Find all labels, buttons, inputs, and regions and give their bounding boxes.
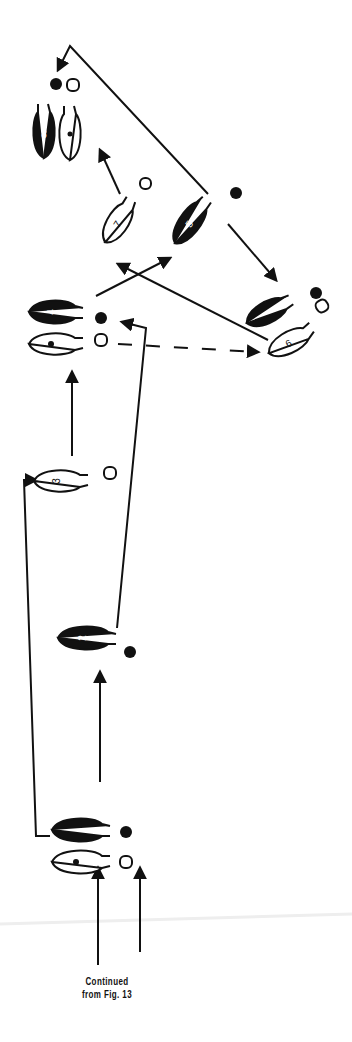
svg-text:8: 8 (41, 129, 47, 140)
svg-text:4: 4 (46, 309, 57, 315)
toe-marker-5 (230, 187, 242, 199)
footprint-step-4: 4 (29, 301, 107, 324)
toe-marker-7 (140, 178, 151, 189)
footprint-step-and-3 (242, 290, 296, 332)
arrow-2-to-4 (117, 322, 146, 628)
footprint-step-3: 3 (34, 467, 116, 492)
arrow-5-to-8 (58, 46, 208, 194)
toe-marker-and-4 (67, 79, 79, 91)
arrow-and-to-3 (24, 480, 50, 836)
svg-text:2: 2 (77, 635, 88, 641)
arrow-4-to-5 (96, 258, 170, 296)
footprint-step-and-4 (59, 106, 80, 160)
footprint-step-5: 5 (166, 193, 214, 249)
caption-line-2: from Fig. 13 (63, 988, 151, 1001)
toe-marker-6 (314, 298, 330, 314)
footprint-step-6: 6 (264, 320, 318, 362)
footprint-step-1 (52, 819, 132, 842)
svg-text:3: 3 (51, 478, 62, 484)
dance-step-diagram: 2 3 4 5 (0, 0, 352, 1042)
toe-marker-and-3 (310, 287, 322, 299)
footprint-step-8: 8 (33, 104, 54, 158)
caption-line-1: Continued (63, 975, 151, 988)
page-fold-line (0, 914, 352, 924)
figure-caption: Continued from Fig. 13 (63, 975, 151, 1001)
footprint-step-and-1 (52, 851, 132, 874)
footprints: 2 3 4 5 (29, 78, 330, 873)
footprint-step-7: 7 (96, 194, 141, 248)
arrow-7-to-8 (100, 150, 120, 194)
footprint-step-2: 2 (58, 627, 136, 658)
toe-marker-8 (50, 78, 62, 90)
arrow-6-to-7 (118, 264, 268, 340)
footprint-step-and-2 (29, 333, 107, 354)
arrow-5-to-and (228, 224, 276, 280)
arrow-and-to-6 (118, 344, 258, 352)
